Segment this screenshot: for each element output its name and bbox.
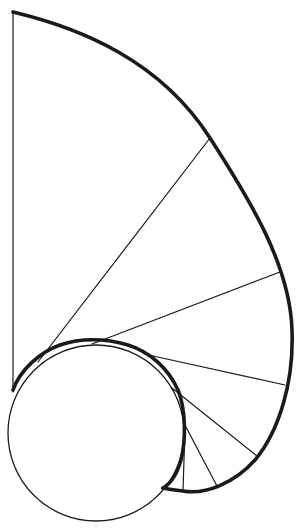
involute-diagram xyxy=(0,0,301,531)
tangent-line xyxy=(38,138,210,362)
base-circle xyxy=(8,345,184,521)
tangent-line xyxy=(92,272,280,344)
tangent-line xyxy=(186,427,218,488)
